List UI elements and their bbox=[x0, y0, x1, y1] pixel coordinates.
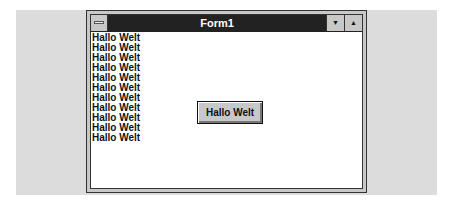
client-area: Hallo Welt Hallo Welt Hallo Welt Hallo W… bbox=[91, 32, 362, 188]
window-frame: Form1 ▼ ▲ Hallo Welt Hallo Welt Hallo We… bbox=[90, 14, 363, 189]
system-menu-icon bbox=[94, 21, 104, 24]
window-title: Form1 bbox=[108, 15, 326, 31]
title-bar[interactable]: Form1 ▼ ▲ bbox=[91, 15, 362, 33]
form1-window: Form1 ▼ ▲ Hallo Welt Hallo Welt Hallo We… bbox=[86, 10, 367, 193]
maximize-icon: ▲ bbox=[350, 19, 357, 26]
hallo-welt-button[interactable]: Hallo Welt bbox=[197, 101, 263, 124]
system-menu-button[interactable] bbox=[91, 15, 108, 31]
minimize-button[interactable]: ▼ bbox=[326, 15, 344, 31]
minimize-icon: ▼ bbox=[332, 19, 339, 26]
output-lines: Hallo Welt Hallo Welt Hallo Welt Hallo W… bbox=[92, 33, 140, 143]
maximize-button[interactable]: ▲ bbox=[344, 15, 362, 31]
output-line: Hallo Welt bbox=[92, 133, 140, 143]
